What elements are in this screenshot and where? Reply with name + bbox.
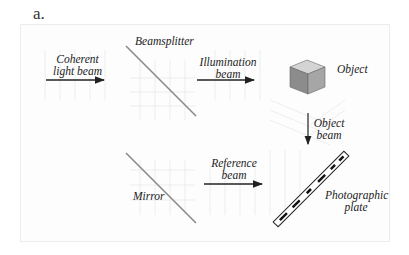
holography-diagram <box>0 0 409 255</box>
mirror-label: Mirror <box>133 190 165 202</box>
coherent-label: Coherentlight beam <box>50 53 105 77</box>
object-beam-label: Objectbeam <box>311 117 347 141</box>
beamsplitter-label: Beamsplitter <box>135 35 194 47</box>
beamsplitter <box>126 46 196 116</box>
object-label: Object <box>337 63 368 75</box>
illumination-label: Illuminationbeam <box>196 56 260 80</box>
mirror <box>126 153 196 223</box>
object-cube <box>290 60 325 94</box>
reference-label: Referencebeam <box>206 157 262 181</box>
plate-label: Photographicplate <box>325 189 387 213</box>
